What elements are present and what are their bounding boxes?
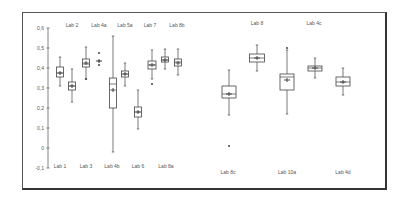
y-tick-label: 0,2 xyxy=(37,105,44,111)
box-lab-4a xyxy=(96,52,102,66)
boxplot-chart: 0,60,50,40,30,20,10-0,1 Lab 1Lab 3Lab 2L… xyxy=(0,0,407,204)
lab-label: Lab 8b xyxy=(169,22,185,28)
lab-label: Lab 6 xyxy=(132,163,145,169)
lab-label: Lab 8c xyxy=(220,169,236,175)
box-lab-5a xyxy=(122,63,129,86)
lab-label: Lab 1 xyxy=(54,163,67,169)
outlier-point xyxy=(85,78,87,80)
y-tick-label: -0,1 xyxy=(35,165,44,171)
lab-label: Lab 3 xyxy=(80,163,93,169)
y-axis: 0,60,50,40,30,20,10-0,1 xyxy=(35,25,49,171)
y-tick-label: 0 xyxy=(41,145,44,151)
box-lab-4d xyxy=(336,68,350,95)
lab-label: Lab 5a xyxy=(117,22,133,28)
box-lab-4c xyxy=(308,58,322,78)
box-lab-1 xyxy=(57,57,64,86)
y-tick-label: 0,6 xyxy=(37,25,44,31)
box-lab-8a xyxy=(162,49,169,69)
lab-label: Lab 7 xyxy=(144,22,157,28)
lab-label: Lab 4d xyxy=(335,169,351,175)
lab-label: Lab 4c xyxy=(306,20,322,26)
lab-label: Lab 4b xyxy=(104,163,120,169)
lab-label: Lab 4a xyxy=(91,22,107,28)
outlier-point xyxy=(151,83,153,85)
outlier-point xyxy=(228,145,230,147)
lab-label: Lab 10a xyxy=(278,169,296,175)
lab-label: Lab 8a xyxy=(158,163,174,169)
box-lab-8b xyxy=(175,49,182,75)
y-tick-label: 0,4 xyxy=(37,65,44,71)
box-lab-6 xyxy=(135,90,142,129)
box-lab-4b xyxy=(110,36,117,152)
outlier-point xyxy=(98,52,100,54)
outlier-point xyxy=(98,64,100,66)
boxplot-series xyxy=(57,36,351,152)
y-tick-label: 0,3 xyxy=(37,85,44,91)
outlier-point xyxy=(286,47,288,49)
lab-label: Lab 2 xyxy=(66,22,79,28)
box-lab-7 xyxy=(148,50,156,85)
box-lab-8 xyxy=(250,45,265,71)
y-tick-label: 0,5 xyxy=(37,45,44,51)
y-tick-label: 0,1 xyxy=(37,125,44,131)
iqr-box xyxy=(110,78,117,108)
box-lab-2 xyxy=(83,47,90,80)
box-lab-8c xyxy=(222,70,236,147)
box-lab-10a xyxy=(280,47,294,114)
lab-labels: Lab 1Lab 3Lab 2Lab 4aLab 4bLab 5aLab 6La… xyxy=(54,20,351,175)
lab-label: Lab 8 xyxy=(251,20,264,26)
box-lab-3 xyxy=(69,69,76,102)
